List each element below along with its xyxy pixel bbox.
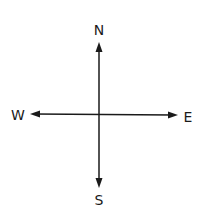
north-arrowhead-icon <box>96 42 103 52</box>
south-label: S <box>95 192 104 208</box>
horizontal-axis <box>30 111 178 119</box>
south-arrowhead-icon <box>96 178 103 188</box>
east-label: E <box>184 109 193 125</box>
west-arrowhead-icon <box>30 111 40 118</box>
east-arrowhead-icon <box>168 112 178 119</box>
north-label: N <box>94 22 104 38</box>
compass-diagram: N S W E <box>0 0 204 218</box>
west-label: W <box>11 107 25 123</box>
